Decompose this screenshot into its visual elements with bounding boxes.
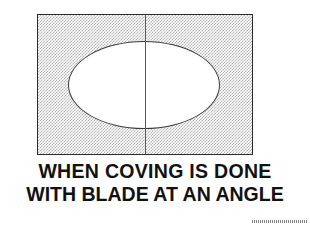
caption-line-2: WITH BLADE AT AN ANGLE xyxy=(0,183,310,206)
blade-center-line xyxy=(145,15,146,154)
cove-ellipse-shape xyxy=(68,41,220,129)
hatched-stock-panel xyxy=(37,14,253,155)
caption-line-1: WHEN COVING IS DONE xyxy=(0,160,310,183)
coving-diagram-figure: WHEN COVING IS DONE WITH BLADE AT AN ANG… xyxy=(0,0,310,230)
scan-artifact-mark xyxy=(252,220,308,223)
figure-caption: WHEN COVING IS DONE WITH BLADE AT AN ANG… xyxy=(0,160,310,206)
